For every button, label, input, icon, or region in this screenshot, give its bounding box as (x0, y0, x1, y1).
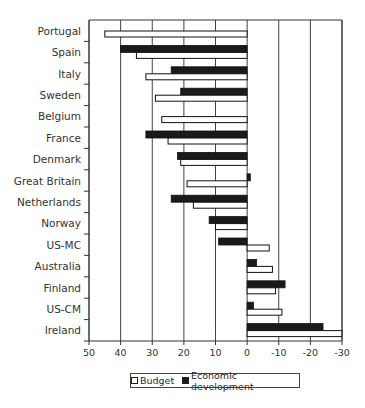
x-tick-labels: 50403020100-10-20-30 (83, 347, 350, 358)
category-label: Portugal (38, 25, 82, 37)
legend-econ-label: Economic development (191, 370, 299, 392)
x-tick-label: 30 (146, 347, 158, 358)
bar-budget (193, 202, 247, 208)
category-label: Sweden (40, 89, 82, 101)
bar-economic-development (247, 324, 323, 331)
bar-economic-development (171, 195, 247, 202)
bar-economic-development (146, 131, 247, 138)
bar-budget (216, 224, 248, 230)
category-label: Australia (35, 260, 81, 272)
x-tick-label: 10 (209, 347, 221, 358)
category-label: Italy (58, 68, 81, 80)
economic-development-swatch-icon (182, 377, 189, 384)
bar-budget (105, 31, 247, 37)
bar-budget (187, 181, 247, 187)
category-label: Netherlands (17, 196, 81, 208)
x-tick-label: 40 (115, 347, 127, 358)
x-tick-label: 20 (178, 347, 190, 358)
budget-swatch-icon (131, 377, 138, 384)
bar-budget (136, 52, 247, 58)
x-tick-label: -30 (334, 347, 350, 358)
bar-economic-development (181, 88, 247, 95)
category-label: Finland (43, 282, 81, 294)
bar-budget (162, 117, 247, 123)
bar-budget (247, 288, 275, 294)
legend: Budget Economic development (130, 373, 300, 388)
x-tick-label: -20 (303, 347, 319, 358)
bar-budget (146, 74, 247, 80)
category-label: US-MC (46, 239, 81, 251)
bar-budget (168, 138, 247, 144)
x-tick-label: -10 (271, 347, 287, 358)
bar-budget (181, 159, 247, 165)
category-label: US-CM (46, 303, 81, 315)
bar-budget (247, 309, 282, 315)
legend-budget-label: Budget (140, 375, 174, 386)
bar-budget (247, 266, 272, 272)
bar-economic-development (178, 152, 248, 159)
bar-economic-development (247, 281, 285, 288)
bar-economic-development (171, 67, 247, 74)
bar-chart: PortugalSpainItalySwedenBelgiumFranceDen… (0, 0, 365, 408)
x-tick-label: 0 (244, 347, 250, 358)
bar-budget (247, 331, 342, 337)
bar-economic-development (209, 217, 247, 224)
legend-item-economic-development: Economic development (182, 370, 299, 392)
category-label: Great Britain (14, 175, 81, 187)
legend-item-budget: Budget (131, 375, 174, 386)
category-label: France (46, 132, 81, 144)
bar-economic-development (247, 259, 256, 266)
bar-economic-development (247, 302, 253, 309)
bar-economic-development (121, 45, 248, 52)
category-labels: PortugalSpainItalySwedenBelgiumFranceDen… (14, 25, 82, 337)
bar-economic-development (247, 174, 250, 181)
category-label: Ireland (45, 324, 81, 336)
bar-economic-development (219, 238, 247, 245)
bar-budget (247, 245, 269, 251)
category-label: Norway (41, 217, 81, 229)
category-label: Belgium (38, 110, 81, 122)
x-tick-label: 50 (83, 347, 95, 358)
bar-budget (155, 95, 247, 101)
bars (105, 31, 342, 337)
category-label: Denmark (33, 153, 82, 165)
category-label: Spain (52, 46, 81, 58)
